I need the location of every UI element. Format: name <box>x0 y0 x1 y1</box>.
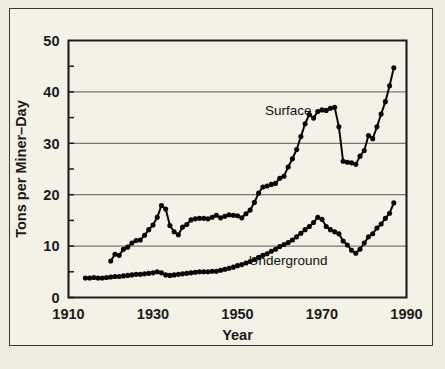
y-tick-label: 20 <box>43 187 59 203</box>
y-axis-title: Tons per Miner–Day <box>13 100 29 238</box>
y-tick-label: 10 <box>43 238 59 254</box>
x-axis-tick-labels: 19101930195019701990 <box>52 306 422 322</box>
x-tick-label: 1950 <box>221 306 253 322</box>
series-label-underground: Underground <box>249 253 328 268</box>
x-tick-label: 1930 <box>137 306 169 322</box>
x-tick-label: 1970 <box>306 306 338 322</box>
series-underground <box>83 200 397 280</box>
chart-figure: 01020304050 19101930195019701990 Surface… <box>0 0 445 369</box>
line-chart: 01020304050 19101930195019701990 Surface… <box>0 0 445 369</box>
y-axis-tick-labels: 01020304050 <box>43 33 59 306</box>
series-label-surface: Surface <box>265 103 312 118</box>
x-axis-title: Year <box>222 327 253 343</box>
y-tick-label: 0 <box>51 290 59 306</box>
x-tick-label: 1910 <box>52 306 84 322</box>
x-tick-label: 1990 <box>390 306 422 322</box>
y-tick-label: 40 <box>43 84 59 100</box>
gridlines <box>69 92 407 246</box>
series-surface <box>108 65 396 263</box>
y-tick-label: 50 <box>43 33 59 49</box>
y-tick-label: 30 <box>43 136 59 152</box>
data-series <box>83 65 397 280</box>
axis-lines <box>69 41 407 298</box>
